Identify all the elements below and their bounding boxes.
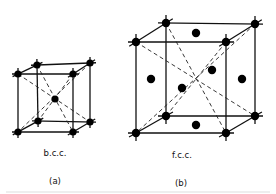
crystal-structure-diagram: b.c.c. (a) f.c.c. (b) bbox=[0, 0, 276, 194]
fcc-panel-label: (b) bbox=[175, 178, 187, 188]
center-atom bbox=[178, 84, 186, 92]
corner-atom bbox=[33, 61, 40, 68]
corner-atom bbox=[86, 59, 93, 66]
face-center-atom bbox=[238, 75, 246, 83]
fcc-unit-cell bbox=[128, 15, 263, 141]
cell-edge bbox=[158, 23, 263, 24]
corner-atom bbox=[69, 70, 76, 77]
corner-atom bbox=[222, 129, 230, 137]
face-center-atom bbox=[192, 121, 200, 129]
corner-atom bbox=[251, 112, 259, 120]
corner-atom bbox=[132, 38, 140, 46]
face-center-atom bbox=[147, 75, 155, 83]
corner-atom bbox=[34, 117, 41, 124]
corner-atom bbox=[222, 38, 230, 46]
corner-atom bbox=[162, 112, 170, 120]
fcc-label: f.c.c. bbox=[172, 150, 192, 160]
corner-atom bbox=[251, 20, 259, 28]
corner-atom bbox=[14, 70, 21, 77]
corner-atom bbox=[86, 118, 93, 125]
corner-atom bbox=[162, 19, 170, 27]
bcc-label: b.c.c. bbox=[44, 148, 67, 158]
center-atom bbox=[51, 95, 58, 102]
corner-atom bbox=[69, 128, 76, 135]
bcc-unit-cell bbox=[12, 57, 96, 138]
face-center-atom bbox=[208, 66, 216, 74]
face-center-atom bbox=[192, 29, 200, 37]
cell-edge bbox=[32, 121, 96, 122]
bcc-panel-label: (a) bbox=[49, 176, 61, 186]
corner-atom bbox=[14, 128, 21, 135]
corner-atom bbox=[132, 129, 140, 137]
cell-edge bbox=[37, 59, 38, 127]
